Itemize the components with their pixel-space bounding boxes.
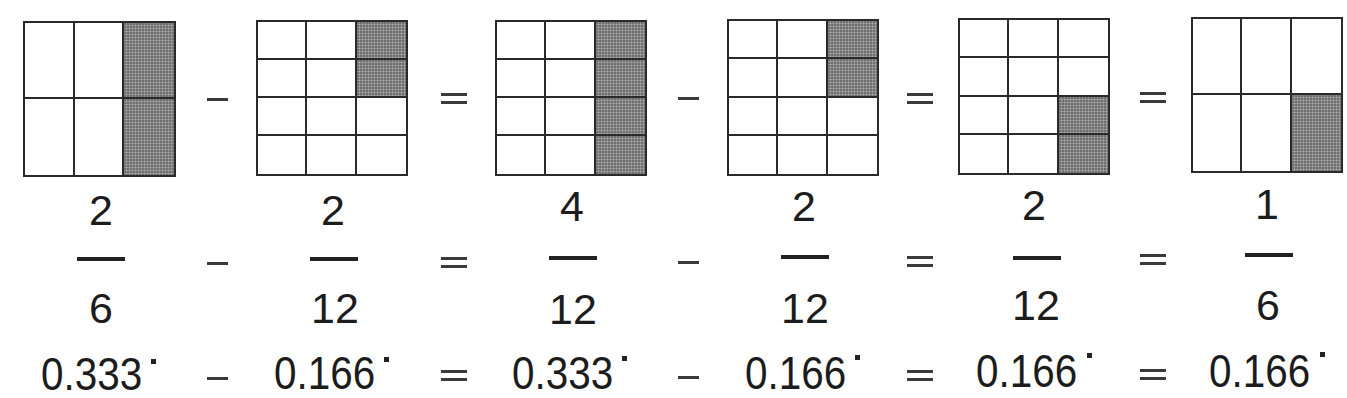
repeating-dot-term-3 [622, 356, 627, 361]
grid-cell [960, 135, 1009, 173]
grid-cell [307, 98, 356, 136]
shaded-cell [596, 22, 645, 60]
equals-operator-fraction-2 [441, 257, 467, 269]
minus-operator-fraction-3 [676, 257, 702, 269]
area-grid-term-5 [958, 18, 1110, 175]
grid-cell [258, 136, 307, 174]
decimal-term-1: 0.333 [41, 350, 142, 397]
grid-cell [960, 58, 1009, 96]
grid-cell [357, 98, 406, 136]
shaded-cell [124, 99, 174, 175]
equals-operator-grid-5 [1140, 92, 1166, 104]
grid-cell [546, 60, 595, 98]
grid-cell [258, 98, 307, 136]
grid-cell [1009, 20, 1058, 58]
grid-cell [729, 21, 778, 59]
numerator: 2 [273, 189, 393, 232]
shaded-cell [828, 59, 877, 97]
shaded-cell [1059, 97, 1108, 135]
grid-cell [1009, 135, 1058, 173]
denominator: 12 [976, 284, 1096, 327]
equals-operator-grid-4 [907, 93, 933, 105]
shaded-cell [828, 21, 877, 59]
denominator: 6 [1208, 284, 1328, 327]
shaded-cell [357, 22, 406, 60]
fraction-bar [310, 257, 358, 261]
denominator: 12 [275, 287, 395, 330]
repeating-dot-term-5 [1087, 353, 1092, 358]
grid-cell [497, 60, 546, 98]
decimal-term-3: 0.333 [512, 349, 613, 396]
minus-operator-fraction-1 [205, 258, 231, 270]
area-grid-term-2 [256, 20, 408, 176]
denominator: 12 [513, 288, 633, 331]
area-grid-term-4 [727, 19, 879, 176]
grid-cell [729, 98, 778, 136]
fraction-bar [1245, 253, 1293, 257]
shaded-cell [124, 23, 174, 99]
grid-cell [1193, 95, 1242, 171]
shaded-cell [1059, 135, 1108, 173]
grid-cell [497, 22, 546, 60]
grid-cell [1009, 97, 1058, 135]
equals-operator-decimal-4 [907, 370, 933, 382]
fraction-bar [1013, 256, 1061, 260]
minus-operator-decimal-1 [205, 373, 231, 385]
grid-cell [1193, 19, 1242, 95]
grid-cell [546, 98, 595, 136]
shaded-cell [596, 98, 645, 136]
minus-operator-grid-1 [205, 94, 231, 106]
area-grid-term-6 [1191, 17, 1343, 173]
grid-cell [497, 136, 546, 174]
equals-operator-decimal-5 [1140, 369, 1166, 381]
shaded-cell [357, 60, 406, 98]
denominator: 6 [41, 287, 161, 330]
grid-cell [729, 136, 778, 174]
grid-cell [25, 23, 75, 99]
fraction-bar [549, 256, 597, 260]
grid-cell [258, 60, 307, 98]
grid-cell [25, 99, 75, 175]
grid-cell [307, 22, 356, 60]
grid-cell [729, 59, 778, 97]
grid-cell [307, 136, 356, 174]
grid-cell [546, 136, 595, 174]
grid-cell [497, 98, 546, 136]
decimal-term-2: 0.166 [274, 349, 375, 396]
area-grid-term-3 [495, 20, 647, 176]
decimal-term-5: 0.166 [976, 347, 1077, 394]
grid-cell [828, 98, 877, 136]
grid-cell [1009, 58, 1058, 96]
minus-operator-decimal-3 [676, 372, 702, 384]
grid-cell [778, 136, 827, 174]
grid-cell [258, 22, 307, 60]
equals-operator-fraction-4 [907, 256, 933, 268]
equals-operator-grid-2 [441, 93, 467, 105]
grid-cell [960, 20, 1009, 58]
numerator: 1 [1207, 183, 1327, 226]
numerator: 2 [744, 185, 864, 228]
grid-cell [1059, 58, 1108, 96]
shaded-cell [1292, 95, 1341, 171]
repeating-dot-term-4 [855, 355, 860, 360]
equals-operator-decimal-2 [441, 370, 467, 382]
grid-cell [546, 22, 595, 60]
numerator: 2 [974, 184, 1094, 227]
decimal-term-6: 0.166 [1209, 347, 1310, 394]
repeating-dot-term-1 [151, 359, 156, 364]
grid-cell [960, 97, 1009, 135]
grid-cell [1242, 95, 1291, 171]
grid-cell [778, 98, 827, 136]
shaded-cell [596, 136, 645, 174]
numerator: 2 [41, 189, 161, 232]
numerator: 4 [512, 185, 632, 228]
denominator: 12 [745, 287, 865, 330]
grid-cell [778, 59, 827, 97]
repeating-dot-term-6 [1320, 352, 1325, 357]
shaded-cell [596, 60, 645, 98]
fraction-bar [77, 257, 125, 261]
grid-cell [75, 99, 125, 175]
grid-cell [828, 136, 877, 174]
area-grid-term-1 [23, 21, 176, 177]
minus-operator-grid-3 [676, 93, 702, 105]
